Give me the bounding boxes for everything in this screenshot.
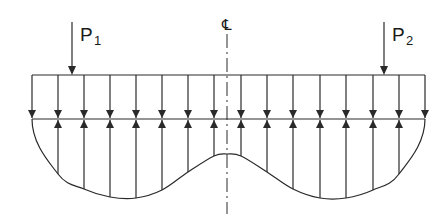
down-arrow-icon bbox=[106, 110, 114, 118]
load-label: P bbox=[80, 24, 93, 45]
down-arrow-icon bbox=[369, 110, 377, 118]
up-arrow-icon bbox=[80, 120, 88, 128]
up-arrow-icon bbox=[132, 120, 140, 128]
point-load-2: P2 bbox=[380, 22, 413, 75]
up-arrow-icon bbox=[184, 120, 192, 128]
down-arrow-icon bbox=[395, 110, 403, 118]
up-arrow-icon bbox=[237, 120, 245, 128]
down-arrow-icon bbox=[342, 110, 350, 118]
down-arrow-icon bbox=[54, 110, 62, 118]
pressure-curve bbox=[32, 119, 425, 199]
load-arrow-icon bbox=[68, 66, 76, 75]
centerline-symbol: ℄ bbox=[221, 16, 232, 33]
up-arrow-icon bbox=[106, 120, 114, 128]
beam-outline bbox=[32, 75, 425, 119]
down-arrow-icon bbox=[210, 110, 218, 118]
down-arrow-icon bbox=[263, 110, 271, 118]
up-arrow-icon bbox=[210, 120, 218, 128]
load-verticals bbox=[28, 75, 429, 198]
up-arrow-icon bbox=[369, 120, 377, 128]
down-arrow-icon bbox=[80, 110, 88, 118]
up-arrow-icon bbox=[316, 120, 324, 128]
up-arrow-icon bbox=[54, 120, 62, 128]
centerline: ℄ bbox=[221, 16, 232, 214]
down-arrow-icon bbox=[237, 110, 245, 118]
up-arrow-icon bbox=[289, 120, 297, 128]
down-arrow-icon bbox=[28, 110, 36, 118]
down-arrow-icon bbox=[316, 110, 324, 118]
load-arrow-icon bbox=[380, 66, 388, 75]
up-arrow-icon bbox=[263, 120, 271, 128]
point-load-1: P1 bbox=[68, 22, 101, 75]
down-arrow-icon bbox=[132, 110, 140, 118]
point-loads: P1P2 bbox=[68, 22, 413, 75]
soil-pressure-curve bbox=[32, 119, 425, 199]
load-subscript: 2 bbox=[406, 33, 413, 48]
load-subscript: 1 bbox=[94, 33, 101, 48]
down-arrow-icon bbox=[289, 110, 297, 118]
up-arrow-icon bbox=[395, 120, 403, 128]
load-diagram: ℄ P1P2 bbox=[0, 0, 445, 220]
up-arrow-icon bbox=[158, 120, 166, 128]
up-arrow-icon bbox=[342, 120, 350, 128]
down-arrow-icon bbox=[421, 110, 429, 118]
down-arrow-icon bbox=[158, 110, 166, 118]
down-arrow-icon bbox=[184, 110, 192, 118]
load-label: P bbox=[392, 24, 405, 45]
